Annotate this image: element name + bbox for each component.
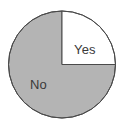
- pie-slice-label-no: No: [30, 78, 47, 91]
- pie-chart-svg: [0, 0, 127, 130]
- pie-slice-label-yes: Yes: [74, 43, 96, 56]
- pie-chart-figure: Yes No: [0, 0, 127, 130]
